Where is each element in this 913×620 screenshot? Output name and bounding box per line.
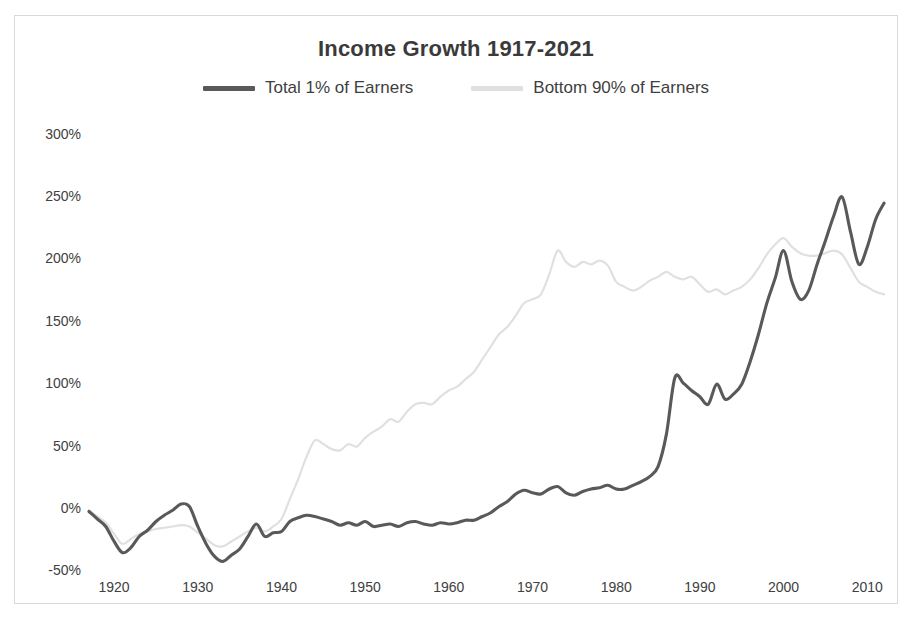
chart-card: Income Growth 1917-2021 Total 1% of Earn… <box>14 15 898 604</box>
series-line-bottom-90-percent <box>89 238 884 547</box>
plot-area <box>15 16 899 605</box>
series-line-total-1-percent <box>89 197 884 562</box>
